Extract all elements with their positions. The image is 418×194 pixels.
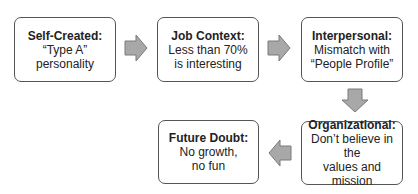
box-title: Interpersonal: [312, 29, 392, 43]
box-line: “Type A” [43, 43, 88, 57]
arrow-right-icon [267, 34, 291, 62]
box-title: Future Doubt: [169, 131, 248, 145]
box-interpersonal: Interpersonal: Mismatch with “People Pro… [301, 17, 403, 82]
arrow-down-icon [341, 88, 369, 113]
box-line: Less than 70% [168, 43, 247, 57]
box-self-created: Self-Created: “Type A” personality [14, 17, 116, 82]
box-future-doubt: Future Doubt: No growth, no fun [158, 120, 259, 184]
box-job-context: Job Context: Less than 70% is interestin… [157, 17, 259, 82]
arrow-left-icon [268, 139, 292, 167]
box-title: Job Context: [171, 29, 244, 43]
box-line: is interesting [174, 57, 241, 71]
box-line: personality [36, 57, 94, 71]
box-line: no fun [192, 159, 225, 173]
box-line: No growth, [179, 145, 237, 159]
box-line: values and mission [302, 160, 402, 188]
box-line: Mismatch with [314, 43, 390, 57]
arrow-right-icon [124, 34, 148, 62]
box-line: Don’t believe in the [302, 132, 402, 160]
box-title: Self-Created: [28, 29, 103, 43]
box-organizational: Organizational: Don’t believe in the val… [301, 121, 403, 185]
box-title: Organizational: [308, 118, 395, 132]
box-line: “People Profile” [311, 57, 394, 71]
